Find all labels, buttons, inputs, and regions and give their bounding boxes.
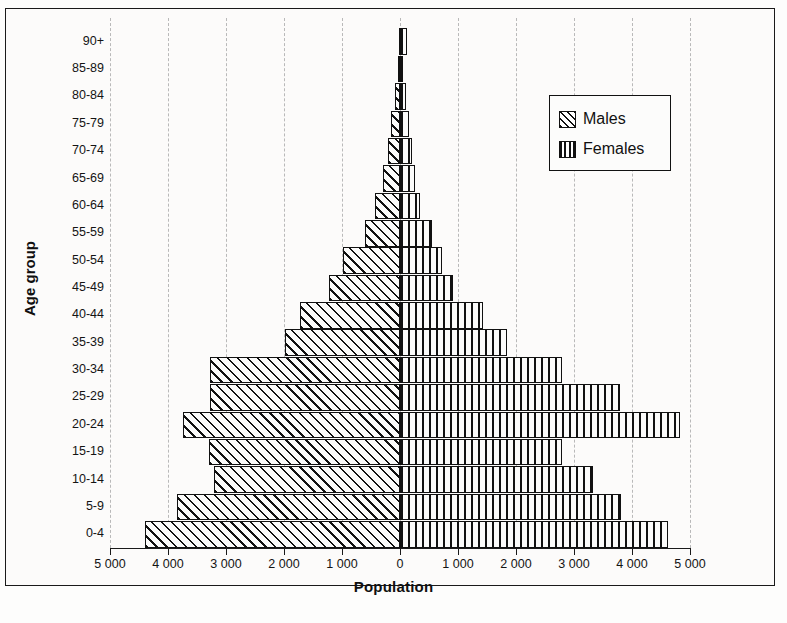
female-bar — [400, 193, 420, 220]
male-bar — [214, 466, 400, 493]
population-pyramid-figure: 5 0004 0003 0002 0001 00001 0002 0003 00… — [0, 0, 787, 623]
male-bar — [210, 384, 400, 411]
y-axis-tick-label: 85-89 — [40, 61, 104, 75]
female-bar — [400, 275, 453, 302]
y-axis-tick-label: 5-9 — [40, 499, 104, 513]
y-axis-tick-label: 30-34 — [40, 362, 104, 376]
female-bar — [400, 56, 403, 83]
gridline — [168, 18, 169, 548]
y-axis-tick-label: 0-4 — [40, 526, 104, 540]
y-axis-tick-label: 45-49 — [40, 280, 104, 294]
x-axis-tick-label: 2 000 — [254, 557, 314, 571]
x-axis-tick-label: 5 000 — [660, 557, 720, 571]
y-axis-tick-label: 40-44 — [40, 307, 104, 321]
female-bar — [400, 302, 483, 329]
female-bar — [400, 138, 412, 165]
y-axis-tick-label: 75-79 — [40, 116, 104, 130]
chart-legend: Males Females — [549, 95, 671, 171]
x-axis-tick-label: 0 — [370, 557, 430, 571]
y-axis-tick-label: 90+ — [40, 34, 104, 48]
x-axis-line — [110, 548, 690, 549]
female-bar — [400, 329, 507, 356]
male-bar — [209, 439, 400, 466]
x-axis-tick — [458, 548, 459, 555]
female-bar — [400, 111, 409, 138]
female-bar — [400, 83, 406, 110]
x-axis-tick — [342, 548, 343, 555]
y-axis-tick-label: 70-74 — [40, 143, 104, 157]
gridline — [110, 18, 111, 548]
legend-item-females: Females — [559, 134, 670, 164]
legend-label-females: Females — [583, 140, 644, 158]
males-swatch-icon — [559, 111, 576, 128]
y-axis-tick-label: 25-29 — [40, 389, 104, 403]
x-axis-tick-label: 5 000 — [80, 557, 140, 571]
y-axis-title: Age group — [21, 214, 38, 344]
female-bar — [400, 521, 668, 548]
y-axis-tick-label: 55-59 — [40, 225, 104, 239]
y-axis-tick-label: 15-19 — [40, 444, 104, 458]
female-bar — [400, 247, 442, 274]
male-bar — [391, 111, 400, 138]
male-bar — [177, 494, 400, 521]
x-axis-tick-label: 4 000 — [602, 557, 662, 571]
x-axis-tick-label: 4 000 — [138, 557, 198, 571]
y-axis-tick-label: 20-24 — [40, 417, 104, 431]
male-bar — [375, 193, 400, 220]
female-bar — [400, 357, 562, 384]
x-axis-tick — [632, 548, 633, 555]
female-bar — [400, 220, 432, 247]
y-axis-tick-label: 65-69 — [40, 171, 104, 185]
male-bar — [210, 357, 400, 384]
male-bar — [343, 247, 400, 274]
female-bar — [400, 466, 593, 493]
male-bar — [285, 329, 400, 356]
x-axis-tick-label: 3 000 — [544, 557, 604, 571]
x-axis-tick-label: 1 000 — [428, 557, 488, 571]
female-bar — [400, 412, 680, 439]
y-axis-tick-label: 50-54 — [40, 253, 104, 267]
x-axis-tick — [516, 548, 517, 555]
plot-area: 5 0004 0003 0002 0001 00001 0002 0003 00… — [0, 0, 787, 623]
y-axis-tick-label: 10-14 — [40, 472, 104, 486]
x-axis-tick — [400, 548, 401, 555]
x-axis-title: Population — [0, 578, 787, 595]
female-bar — [400, 439, 562, 466]
y-axis-tick-label: 80-84 — [40, 88, 104, 102]
x-axis-tick — [168, 548, 169, 555]
x-axis-tick — [690, 548, 691, 555]
legend-label-males: Males — [583, 110, 626, 128]
male-bar — [329, 275, 400, 302]
female-bar — [400, 28, 407, 55]
x-axis-tick — [110, 548, 111, 555]
x-axis-tick-label: 1 000 — [312, 557, 372, 571]
female-bar — [400, 384, 620, 411]
male-bar — [300, 302, 400, 329]
x-axis-tick-label: 3 000 — [196, 557, 256, 571]
y-axis-tick-label: 60-64 — [40, 198, 104, 212]
female-bar — [400, 165, 415, 192]
male-bar — [365, 220, 400, 247]
x-axis-tick — [574, 548, 575, 555]
female-bar — [400, 494, 621, 521]
male-bar — [383, 165, 400, 192]
gridline — [690, 18, 691, 548]
male-bar — [388, 138, 400, 165]
x-axis-tick — [284, 548, 285, 555]
legend-item-males: Males — [559, 104, 670, 134]
y-axis-tick-label: 35-39 — [40, 335, 104, 349]
male-bar — [145, 521, 400, 548]
male-bar — [183, 412, 400, 439]
females-swatch-icon — [559, 141, 576, 158]
x-axis-tick-label: 2 000 — [486, 557, 546, 571]
x-axis-tick — [226, 548, 227, 555]
